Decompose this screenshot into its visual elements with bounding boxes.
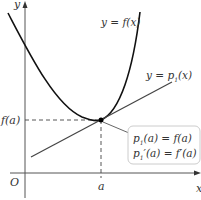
y-tick-label-fa: f(a)	[0, 114, 20, 127]
curve-f	[8, 12, 140, 121]
curve-label: y = f(x)	[100, 16, 140, 28]
y-axis-arrow-icon	[23, 1, 28, 8]
x-axis-arrow-icon	[194, 171, 201, 176]
x-axis-label: x	[196, 182, 201, 195]
tangency-point	[99, 118, 104, 123]
tangent-label: y = p1(x)	[145, 69, 192, 83]
tangent-line-diagram: y x O a f(a) y = f(x) y = p1(x) p1(a) = …	[0, 0, 201, 200]
x-tick-label-a: a	[98, 180, 105, 193]
callout-leader	[103, 122, 129, 133]
y-axis-label: y	[13, 0, 21, 11]
origin-label: O	[10, 176, 19, 189]
